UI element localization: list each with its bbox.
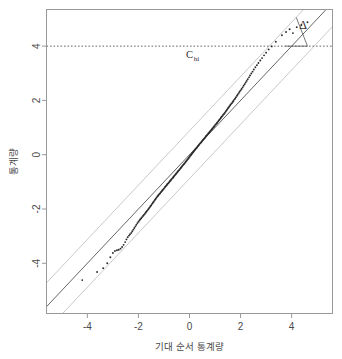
- data-point: [265, 52, 267, 54]
- y-tick-label: -4: [31, 258, 42, 267]
- data-point: [246, 80, 248, 82]
- data-point: [112, 252, 114, 254]
- x-tick-label: 4: [289, 321, 295, 332]
- data-point: [292, 32, 294, 34]
- data-point: [244, 83, 246, 85]
- data-point: [263, 54, 265, 56]
- data-point: [256, 64, 258, 66]
- data-point: [118, 249, 120, 251]
- data-point: [132, 229, 134, 231]
- data-point: [245, 82, 247, 84]
- data-point: [135, 224, 137, 226]
- data-point: [243, 85, 245, 87]
- data-point: [109, 256, 111, 258]
- y-tick-label: 0: [31, 151, 42, 157]
- data-point: [281, 34, 283, 36]
- data-point: [120, 248, 122, 250]
- data-point: [96, 271, 98, 273]
- data-point: [252, 71, 254, 73]
- data-point: [249, 75, 251, 77]
- data-point: [123, 244, 125, 246]
- data-point: [271, 45, 273, 47]
- data-point: [121, 246, 123, 248]
- x-tick-label: -2: [134, 321, 143, 332]
- data-point: [248, 76, 250, 78]
- data-point: [261, 57, 263, 59]
- data-point: [130, 232, 132, 234]
- y-axis-title: 통계량: [8, 148, 19, 175]
- data-point: [127, 236, 129, 238]
- data-point: [254, 66, 256, 68]
- y-tick-label: -2: [31, 204, 42, 213]
- c-hi-label: C: [186, 49, 193, 60]
- qq-plot-figure: -4-2024 -4-2024 C hi Δ 기대 순서 통계량 통계량: [0, 0, 342, 359]
- x-tick-label: 0: [187, 321, 193, 332]
- data-point: [131, 230, 133, 232]
- data-point: [102, 267, 104, 269]
- data-point: [296, 26, 298, 28]
- data-point: [114, 250, 116, 252]
- y-tick-label: 4: [31, 43, 42, 49]
- data-point: [81, 279, 83, 281]
- data-point: [116, 249, 118, 251]
- data-point: [268, 48, 270, 50]
- x-tick-label: -4: [83, 321, 92, 332]
- plot-canvas: -4-2024 -4-2024 C hi Δ 기대 순서 통계량 통계량: [0, 0, 342, 359]
- data-point: [259, 60, 261, 62]
- data-point: [125, 238, 127, 240]
- data-point: [289, 28, 291, 30]
- data-point: [106, 262, 108, 264]
- y-tick-label: 2: [31, 97, 42, 103]
- data-point: [285, 31, 287, 33]
- data-point: [258, 62, 260, 64]
- data-point: [247, 78, 249, 80]
- data-point: [275, 41, 277, 43]
- data-point: [124, 241, 126, 243]
- data-point: [242, 86, 244, 88]
- data-point: [241, 88, 243, 90]
- c-hi-subscript: hi: [194, 55, 200, 63]
- x-tick-label: 2: [238, 321, 244, 332]
- data-point: [134, 225, 136, 227]
- x-axis-title: 기대 순서 통계량: [155, 341, 223, 352]
- data-point: [250, 73, 252, 75]
- data-point: [133, 227, 135, 229]
- delta-symbol-label: Δ: [299, 18, 307, 32]
- data-point: [253, 69, 255, 71]
